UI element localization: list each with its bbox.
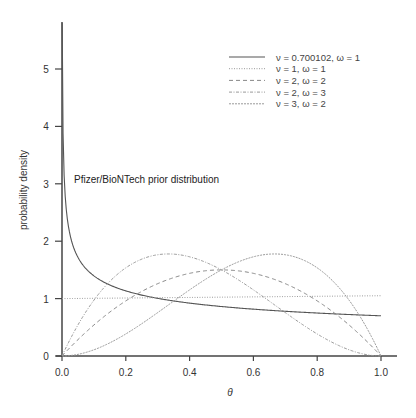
x-tick-label: 0.6 [246,367,260,378]
legend-label: ν = 3, ω = 2 [276,98,326,109]
x-tick-label: 1.0 [374,367,388,378]
y-tick-label: 4 [43,121,49,132]
curve-series-4 [62,254,381,356]
x-tick-label: 0.8 [310,367,324,378]
y-tick-label: 2 [43,236,49,247]
curve-series-2 [62,296,381,299]
curve-series-5 [62,254,381,356]
y-tick-label: 5 [43,64,49,75]
y-tick-label: 1 [43,294,49,305]
y-tick-label: 0 [43,351,49,362]
legend-label: ν = 1, ω = 1 [276,63,326,74]
curves [62,23,381,356]
legend-label: ν = 2, ω = 2 [276,75,326,86]
y-tick-label: 3 [43,179,49,190]
legend-label: ν = 0.700102, ω = 1 [276,52,360,63]
x-tick-label: 0.0 [55,367,69,378]
legend: ν = 0.700102, ω = 1ν = 1, ω = 1ν = 2, ω … [229,52,360,110]
x-axis-label: θ [227,387,233,398]
x-ticks: 0.00.20.40.60.81.0 [55,356,388,378]
x-tick-label: 0.4 [183,367,197,378]
chart: 0.00.20.40.60.81.0 012345 Pfizer/BioNTec… [0,0,416,418]
annotation-text: Pfizer/BioNTech prior distribution [74,174,219,185]
y-axis-label: probability density [18,150,29,230]
legend-label: ν = 2, ω = 3 [276,87,326,98]
x-tick-label: 0.2 [119,367,133,378]
curve-series-1 [62,23,381,316]
y-ticks: 012345 [43,64,62,362]
